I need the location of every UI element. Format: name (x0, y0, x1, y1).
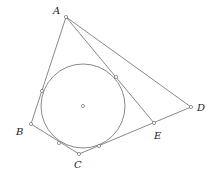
label-e: E (153, 130, 162, 141)
point-e (152, 121, 155, 124)
label-a: A (52, 5, 60, 16)
point-a (64, 15, 67, 18)
incircle-center-point (81, 104, 84, 107)
tangent-point-ab (40, 89, 43, 92)
point-b (29, 122, 32, 125)
segment-bc (31, 124, 79, 154)
tangent-point-bc (57, 141, 60, 144)
point-d (189, 105, 192, 108)
label-b: B (15, 126, 23, 137)
segment-ae (66, 17, 154, 123)
label-d: D (196, 102, 205, 113)
segment-ad (66, 17, 191, 107)
label-c: C (74, 159, 82, 170)
tangent-point-ae (114, 75, 117, 78)
geometry-diagram: A B C D E (0, 0, 213, 174)
point-c (77, 152, 80, 155)
tangent-point-ce (97, 144, 100, 147)
segment-cd (79, 107, 191, 154)
